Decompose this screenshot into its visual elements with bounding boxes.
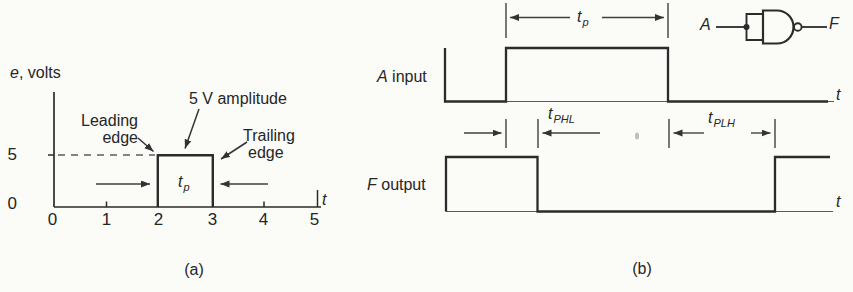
amplitude-label: 5 V amplitude bbox=[189, 90, 287, 107]
gate-output-label: F bbox=[829, 15, 839, 32]
y-axis-variable: e bbox=[10, 64, 19, 81]
tplh-label: tPLH bbox=[708, 109, 735, 128]
x-tick-label-5: 5 bbox=[305, 211, 324, 228]
leading-edge-label: Leading edge bbox=[58, 112, 138, 146]
tp-sub-b: p bbox=[582, 16, 588, 28]
inversion-bubble bbox=[794, 23, 802, 31]
f-output-label: F output bbox=[367, 176, 426, 193]
tplh-base: t bbox=[708, 109, 712, 126]
leading-edge-line1: Leading bbox=[58, 112, 138, 129]
gate-body bbox=[763, 11, 794, 44]
f-output-rest: output bbox=[377, 176, 426, 193]
a-input-variable: A bbox=[377, 68, 388, 85]
y-tick-label-0: 0 bbox=[2, 195, 17, 212]
a-input-waveform bbox=[445, 48, 828, 102]
time-axis-variable-output: t bbox=[836, 193, 840, 210]
leading-edge-line2: edge bbox=[58, 129, 138, 146]
x-tick-label-4: 4 bbox=[254, 211, 273, 228]
x-tick-label-2: 2 bbox=[149, 211, 168, 228]
figure-linework bbox=[0, 0, 853, 292]
f-output-variable: F bbox=[367, 176, 377, 193]
y-axis-units: , volts bbox=[19, 64, 61, 81]
a-input-rest: input bbox=[388, 68, 427, 85]
x-axis-variable-a: t bbox=[322, 191, 326, 208]
caption-b: (b) bbox=[617, 260, 667, 277]
tphl-base: t bbox=[548, 105, 552, 122]
tp-base-b: t bbox=[577, 8, 581, 25]
gate-input-label: A bbox=[700, 16, 711, 33]
y-tick-label-5: 5 bbox=[2, 146, 17, 163]
trailing-edge-label: Trailing edge bbox=[243, 127, 295, 161]
x-tick-label-0: 0 bbox=[43, 211, 62, 228]
tp-sub-a: p bbox=[183, 181, 189, 193]
trailing-edge-line2: edge bbox=[243, 144, 295, 161]
f-output-waveform bbox=[446, 157, 830, 212]
a-input-label: A input bbox=[377, 68, 427, 85]
x-tick-label-1: 1 bbox=[97, 211, 116, 228]
print-artifact bbox=[635, 133, 639, 140]
pulse-width-symbol-a: tp bbox=[178, 173, 190, 192]
tp-base-a: t bbox=[178, 173, 182, 190]
leading-edge-arrow bbox=[138, 138, 154, 152]
time-axis-variable-input: t bbox=[836, 86, 840, 103]
trailing-edge-line1: Trailing bbox=[243, 127, 295, 144]
tphl-sub: PHL bbox=[553, 113, 574, 125]
nand-gate-icon bbox=[716, 11, 827, 44]
textbook-figure: e, volts 5 0 0 1 2 3 4 5 t Leading edge … bbox=[0, 0, 853, 292]
tplh-sub: PLH bbox=[713, 117, 734, 129]
y-axis-title: e, volts bbox=[10, 64, 61, 81]
x-tick-label-3: 3 bbox=[203, 211, 222, 228]
amplitude-arrow bbox=[185, 109, 199, 149]
tphl-label: tPHL bbox=[548, 105, 575, 124]
pulse-width-symbol-b: tp bbox=[577, 8, 589, 27]
caption-a: (a) bbox=[169, 261, 219, 278]
panel-b-timing-diagram bbox=[445, 3, 834, 212]
annotation-arrows bbox=[138, 109, 247, 159]
